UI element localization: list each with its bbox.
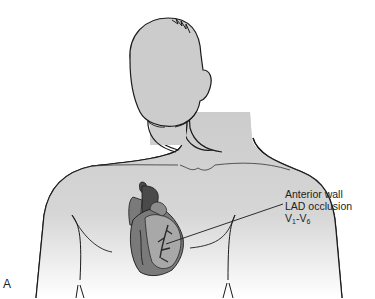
panel-letter: A xyxy=(3,277,11,291)
lead-end-sub: 6 xyxy=(306,218,310,225)
annotation-label: Anterior wall LAD occlusion V1-V6 xyxy=(285,188,352,228)
figure-canvas: Anterior wall LAD occlusion V1-V6 A xyxy=(0,0,375,299)
torso-illustration xyxy=(0,0,375,299)
annotation-line-1: Anterior wall xyxy=(285,188,352,200)
head-shape xyxy=(130,18,211,126)
lead-start-prefix: V xyxy=(285,212,292,224)
annotation-leads: V1-V6 xyxy=(285,212,352,228)
annotation-line-2: LAD occlusion xyxy=(285,200,352,212)
